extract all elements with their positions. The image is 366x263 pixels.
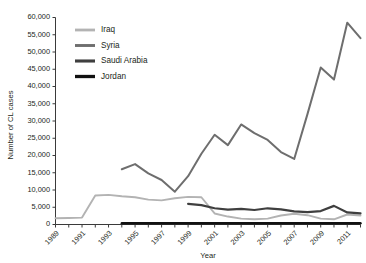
x-tick-label: 2003 (229, 229, 247, 247)
y-tick-label: 20,000 (27, 150, 50, 159)
legend-label-iraq: Iraq (101, 25, 116, 34)
y-tick-label: 50,000 (27, 47, 50, 56)
y-tick-label: 60,000 (27, 12, 50, 21)
legend-label-jordan: Jordan (101, 72, 126, 81)
series-line-syria (122, 23, 361, 192)
y-tick-label: 15,000 (27, 168, 50, 177)
x-tick-label: 1991 (69, 229, 87, 247)
x-axis-title: Year (200, 251, 216, 260)
x-tick-label: 1989 (43, 229, 61, 247)
y-axis-ticks: 05,00010,00015,00020,00025,00030,00035,0… (27, 12, 55, 228)
x-tick-label: 2009 (308, 229, 326, 247)
y-tick-label: 45,000 (27, 64, 50, 73)
series-lines (56, 23, 361, 224)
y-tick-label: 25,000 (27, 133, 50, 142)
y-tick-label: 0 (46, 219, 50, 228)
legend-label-syria: Syria (101, 41, 120, 50)
x-tick-label: 1995 (122, 229, 140, 247)
x-tick-label: 2001 (202, 229, 220, 247)
legend-label-saudi-arabia: Saudi Arabia (101, 56, 148, 65)
x-tick-label: 2007 (282, 229, 300, 247)
y-tick-label: 40,000 (27, 81, 50, 90)
y-tick-label: 10,000 (27, 185, 50, 194)
y-tick-label: 5,000 (32, 202, 51, 211)
chart-figure: 05,00010,00015,00020,00025,00030,00035,0… (0, 0, 366, 263)
line-chart: 05,00010,00015,00020,00025,00030,00035,0… (0, 0, 366, 263)
x-tick-label: 2005 (255, 229, 273, 247)
chart-legend: IraqSyriaSaudi ArabiaJordan (75, 25, 148, 81)
x-axis-ticks: 1989199119931995199719992001200320052007… (43, 225, 361, 247)
y-axis-title: Number of CL cases (6, 90, 15, 159)
y-tick-label: 55,000 (27, 30, 50, 39)
y-tick-label: 35,000 (27, 99, 50, 108)
y-tick-label: 30,000 (27, 116, 50, 125)
x-tick-label: 2011 (335, 229, 353, 247)
x-tick-label: 1997 (149, 229, 167, 247)
x-tick-label: 1993 (96, 229, 114, 247)
x-tick-label: 1999 (176, 229, 194, 247)
